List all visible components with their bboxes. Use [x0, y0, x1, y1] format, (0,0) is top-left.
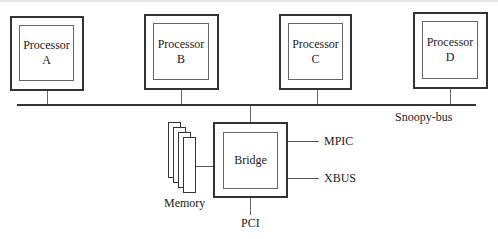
processor-b-id: B — [177, 52, 185, 67]
memory-label: Memory — [164, 196, 205, 211]
pci-label: PCI — [241, 216, 260, 231]
processor-b-connector — [181, 90, 182, 105]
mpic-connector — [288, 141, 319, 142]
mpic-label: MPIC — [324, 134, 353, 149]
memory-connector — [196, 166, 213, 167]
processor-a-inner: Processor A — [19, 25, 74, 81]
snoopy-bus-line — [17, 104, 476, 106]
processor-b-inner: Processor B — [153, 23, 209, 80]
xbus-connector — [288, 178, 319, 179]
processor-c-label: Processor — [292, 37, 339, 52]
xbus-label: XBUS — [324, 171, 356, 186]
processor-d-connector — [450, 89, 451, 104]
bridge-label: Bridge — [234, 153, 267, 168]
processor-a-label: Processor — [23, 38, 70, 53]
processor-d-id: D — [446, 50, 455, 65]
processor-a-connector — [47, 91, 48, 105]
memory-card-4 — [183, 137, 196, 193]
snoopy-bus-label: Snoopy-bus — [395, 110, 452, 125]
processor-b-label: Processor — [158, 37, 205, 52]
processor-c-connector — [317, 90, 318, 105]
processor-d-label: Processor — [427, 35, 474, 50]
top-border — [0, 0, 498, 2]
pci-connector — [250, 198, 251, 215]
bridge-bus-connector — [250, 106, 251, 122]
processor-a-id: A — [42, 53, 51, 68]
processor-d-inner: Processor D — [422, 21, 478, 79]
processor-c-id: C — [311, 52, 319, 67]
bridge-inner: Bridge — [223, 132, 278, 189]
processor-c-inner: Processor C — [288, 23, 343, 80]
